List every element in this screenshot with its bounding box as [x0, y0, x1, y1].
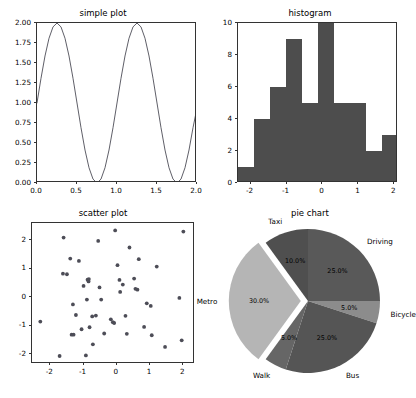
pie-slice-percent: 25.0%: [308, 267, 368, 275]
histogram-bar: [334, 103, 350, 182]
sp-xticks-label: 1.0: [96, 186, 136, 195]
sp-xticks-mark: [116, 182, 117, 184]
scatter-point: [58, 354, 62, 358]
scatter-plot-title: scatter plot: [0, 208, 206, 218]
histogram-bars-svg: [238, 23, 397, 182]
sp-xticks-label: 0.5: [56, 186, 96, 195]
sc-yticks-mark: [29, 353, 31, 354]
scatter-point: [82, 284, 86, 288]
sc-yticks-mark: [29, 296, 31, 297]
sc-yticks-label: 1: [0, 263, 26, 272]
scatter-point: [125, 332, 129, 336]
subplot-pie-chart: pie chart 25.0%Driving5.0%Bicycle25.0%Bu…: [207, 199, 413, 398]
scatter-point: [145, 301, 149, 305]
scatter-point: [94, 314, 98, 318]
hi-xticks-label: -2: [230, 186, 270, 195]
scatter-point: [155, 265, 159, 269]
hi-yticks-label: 4: [207, 114, 232, 123]
hi-yticks-mark: [235, 22, 237, 23]
scatter-point: [74, 313, 78, 317]
hi-yticks-label: 8: [207, 50, 232, 59]
scatter-point: [128, 246, 132, 250]
sp-xticks-mark: [76, 182, 77, 184]
sp-xticks-mark: [156, 182, 157, 184]
sp-yticks-label: 0.50: [0, 138, 31, 147]
sc-yticks-label: -2: [0, 349, 26, 358]
scatter-point: [62, 236, 66, 240]
scatter-point: [149, 304, 153, 308]
pie-slice-label: Bicycle: [390, 310, 416, 319]
scatter-point: [61, 272, 65, 276]
histogram-bar: [382, 135, 397, 182]
pie-slice-percent: 5.0%: [259, 334, 319, 342]
hi-xticks-mark: [321, 182, 322, 184]
scatter-point: [132, 277, 136, 281]
sc-yticks-mark: [29, 325, 31, 326]
scatter-point: [87, 277, 91, 281]
scatter-point: [72, 333, 76, 337]
histogram-bar: [238, 167, 254, 182]
sp-yticks-mark: [34, 162, 36, 163]
histogram-bar: [286, 39, 302, 182]
pie-chart-area: 25.0%Driving5.0%Bicycle25.0%Bus5.0%Walk3…: [216, 215, 406, 387]
scatter-point: [181, 230, 185, 234]
pie-slice-percent: 5.0%: [319, 304, 379, 312]
scatter-point: [112, 321, 116, 325]
scatter-point: [84, 354, 88, 358]
subplot-histogram: histogram 0246810 -2-1012: [207, 0, 413, 199]
scatter-point: [136, 288, 140, 292]
simple-plot-line-svg: [37, 23, 196, 182]
hi-xticks-mark: [357, 182, 358, 184]
sp-yticks-mark: [34, 122, 36, 123]
sp-yticks-mark: [34, 142, 36, 143]
sc-yticks-label: -1: [0, 320, 26, 329]
sc-xticks-mark: [116, 363, 117, 365]
scatter-point: [102, 332, 106, 336]
sp-xticks-label: 0.0: [16, 186, 56, 195]
scatter-point: [150, 333, 154, 337]
sc-xticks-mark: [49, 363, 50, 365]
histogram-bar: [270, 87, 286, 182]
sp-xticks-mark: [196, 182, 197, 184]
histogram-bar: [350, 103, 366, 182]
scatter-points-svg: [32, 223, 194, 363]
hi-yticks-mark: [235, 86, 237, 87]
sp-yticks-mark: [34, 62, 36, 63]
scatter-point: [88, 325, 92, 329]
hi-yticks-label: 0: [207, 178, 232, 187]
histogram-title: histogram: [207, 8, 413, 18]
hi-yticks-label: 2: [207, 146, 232, 155]
histogram-bar: [302, 103, 318, 182]
hi-xticks-label: 2: [373, 186, 413, 195]
sp-yticks-label: 1.75: [0, 38, 31, 47]
sp-yticks-label: 0.75: [0, 118, 31, 127]
sc-yticks-mark: [29, 268, 31, 269]
pie-slice-label: Taxi: [222, 217, 282, 226]
simple-plot-title: simple plot: [0, 8, 206, 18]
sc-xticks-mark: [182, 363, 183, 365]
scatter-point: [124, 314, 128, 318]
sp-yticks-mark: [34, 22, 36, 23]
hi-yticks-label: 6: [207, 82, 232, 91]
sp-yticks-mark: [34, 82, 36, 83]
scatter-point: [80, 327, 84, 331]
sp-yticks-mark: [34, 102, 36, 103]
hi-xticks-mark: [393, 182, 394, 184]
sp-yticks-label: 0.25: [0, 158, 31, 167]
scatter-point: [99, 298, 103, 302]
scatter-point: [96, 239, 100, 243]
scatter-point: [113, 229, 117, 233]
scatter-point: [180, 338, 184, 342]
histogram-axes: [237, 22, 397, 182]
scatter-point: [38, 320, 42, 324]
hi-xticks-mark: [286, 182, 287, 184]
sp-yticks-mark: [34, 42, 36, 43]
histogram-bar: [366, 151, 382, 182]
pie-slice-label: Metro: [157, 297, 217, 306]
scatter-point: [65, 272, 69, 276]
scatter-point: [98, 285, 102, 289]
hi-yticks-mark: [235, 54, 237, 55]
scatter-point: [118, 278, 122, 282]
histogram-bar: [318, 23, 334, 182]
scatter-point: [121, 283, 125, 287]
